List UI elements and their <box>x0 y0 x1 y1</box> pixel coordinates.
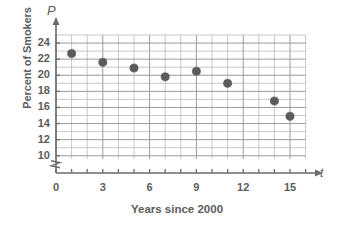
axis-break-icon <box>51 161 60 168</box>
axis-lines <box>53 17 324 177</box>
plot-area <box>0 0 338 228</box>
vertical-gridlines <box>56 35 306 159</box>
x-tick-label: 12 <box>233 181 253 193</box>
y-tick-label: 14 <box>28 117 50 129</box>
x-tick-label: 0 <box>46 181 66 193</box>
data-point <box>161 73 169 81</box>
y-axis-arrowhead <box>53 17 60 25</box>
y-tick-label: 16 <box>28 100 50 112</box>
y-tick-label: 12 <box>28 133 50 145</box>
data-point <box>99 58 107 66</box>
y-tick-label: 20 <box>28 68 50 80</box>
data-point <box>270 97 278 105</box>
x-tick-label: 15 <box>280 181 300 193</box>
y-tick-label: 18 <box>28 84 50 96</box>
y-tick-label: 24 <box>28 36 50 48</box>
y-tick-label: 10 <box>28 149 50 161</box>
x-tick-label: 9 <box>186 181 206 193</box>
x-tick-label: 3 <box>93 181 113 193</box>
scatter-plot-figure: Percent of Smokers Years since 2000 P t … <box>0 0 338 228</box>
data-point <box>68 49 76 57</box>
data-point <box>224 79 232 87</box>
data-point <box>286 112 294 120</box>
data-point <box>130 64 138 72</box>
data-point <box>192 67 200 75</box>
x-axis-arrowhead <box>315 170 323 177</box>
x-tick-label: 6 <box>140 181 160 193</box>
y-tick-label: 22 <box>28 52 50 64</box>
y-axis-break-zigzag <box>51 161 60 168</box>
